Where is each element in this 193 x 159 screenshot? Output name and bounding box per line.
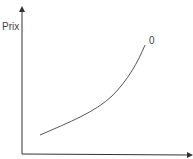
x-axis bbox=[22, 154, 190, 155]
supply-chart: Prix 0 bbox=[0, 0, 193, 159]
chart-canvas bbox=[0, 0, 193, 159]
curve-label: 0 bbox=[149, 35, 155, 46]
supply-curve bbox=[40, 45, 145, 135]
y-axis-label: Prix bbox=[2, 21, 19, 32]
